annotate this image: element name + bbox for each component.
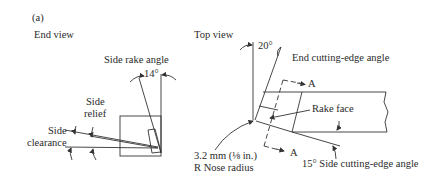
- clearance-arc-right: [93, 149, 96, 160]
- nose-radius-label-line1: 3.2 mm (⅛ in.): [194, 150, 257, 162]
- rake-angle-value: 14°: [144, 68, 159, 80]
- section-a-top-tick: [283, 80, 305, 84]
- side-angle-arc-top: [337, 121, 339, 130]
- cutting-insert-section: [148, 129, 161, 153]
- section-a-bottom-arrow: [276, 149, 284, 151]
- side-relief-line-2: [90, 136, 158, 148]
- rake-angle-arc-left: [130, 76, 144, 82]
- end-view-drawing: [65, 74, 176, 160]
- top-view-title: Top view: [194, 29, 233, 41]
- side-clearance-label-line1: Side: [48, 125, 67, 137]
- section-line-a-a: [264, 80, 283, 146]
- side-clearance-label-line2: clearance: [27, 137, 67, 149]
- side-clearance-line: [65, 147, 158, 148]
- end-angle-arc-left: [240, 45, 252, 50]
- end-cutting-edge-line: [255, 47, 281, 120]
- side-cutting-edge-angle-label: 15° Side cutting-edge angle: [302, 158, 418, 170]
- nose-radius-label-line2: R Nose radius: [194, 162, 254, 174]
- rake-angle-arc-right: [162, 75, 176, 80]
- side-rake-angle-label: Side rake angle: [104, 54, 169, 66]
- end-angle-value: 20°: [258, 40, 273, 52]
- section-a-top-label: A: [308, 78, 316, 90]
- end-view-title: End view: [34, 29, 74, 41]
- side-cutting-edge: [256, 121, 292, 132]
- side-cutting-edge-extension: [292, 132, 340, 146]
- nose-radius-leader: [215, 121, 253, 150]
- shank-cross-section: [120, 116, 161, 156]
- rake-face-leader: [270, 110, 310, 118]
- side-relief-line: [65, 130, 158, 147]
- end-cutting-edge-angle-label: End cutting-edge angle: [292, 52, 389, 64]
- side-relief-label-line1: Side: [86, 96, 105, 108]
- side-relief-label-line2: relief: [84, 108, 106, 120]
- relief-arrow: [75, 126, 76, 134]
- rake-face-label: Rake face: [312, 103, 354, 115]
- section-a-bottom-label: A: [290, 147, 298, 159]
- figure-label: (a): [32, 12, 44, 24]
- clearance-arc-left: [70, 148, 72, 160]
